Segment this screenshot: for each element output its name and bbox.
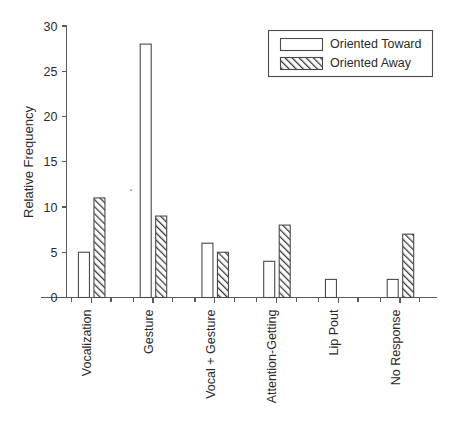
x-category-label: Attention-Getting <box>265 309 279 403</box>
x-category-label: No Response <box>389 309 403 385</box>
legend-label-oriented-toward: Oriented Toward <box>330 37 422 51</box>
bar-vocal-gesture-oriented-away <box>217 252 228 297</box>
y-axis-ticks: 051015202530 <box>44 20 67 306</box>
legend-swatch-oriented-toward <box>281 39 323 51</box>
bar-lip-pout-oriented-toward <box>325 279 336 297</box>
y-tick-label: 25 <box>44 65 58 79</box>
bar-attention-getting-oriented-away <box>279 225 290 297</box>
x-axis-category-labels: VocalizationGestureVocal + GestureAttent… <box>80 309 403 403</box>
bar-gesture-oriented-away <box>156 216 167 297</box>
legend-label-oriented-away: Oriented Away <box>330 56 412 70</box>
bar-vocal-gesture-oriented-toward <box>202 243 213 297</box>
y-tick-label: 30 <box>44 20 58 34</box>
bar-no-response-oriented-away <box>403 234 414 297</box>
y-tick-label: 10 <box>44 201 58 215</box>
bar-no-response-oriented-toward <box>387 279 398 297</box>
y-tick-label: 0 <box>51 291 58 305</box>
bars-layer <box>78 44 413 297</box>
x-category-label: Vocal + Gesture <box>204 309 218 398</box>
bar-gesture-oriented-toward <box>140 44 151 297</box>
bar-chart-svg: 051015202530 Relative Frequency Vocaliza… <box>0 0 451 425</box>
bar-attention-getting-oriented-toward <box>264 261 275 297</box>
bar-vocalization-oriented-toward <box>78 252 89 297</box>
bar-vocalization-oriented-away <box>94 198 105 298</box>
y-tick-label: 5 <box>51 246 58 260</box>
chart-legend: Oriented Toward Oriented Away <box>269 31 433 77</box>
x-category-label: Vocalization <box>80 309 94 376</box>
x-category-label: Gesture <box>142 309 156 354</box>
y-axis-title: Relative Frequency <box>21 106 36 218</box>
chart-figure: 051015202530 Relative Frequency Vocaliza… <box>0 0 451 425</box>
y-tick-label: 20 <box>44 110 58 124</box>
x-axis-ticks <box>71 298 419 303</box>
y-tick-label: 15 <box>44 155 58 169</box>
x-category-label: Lip Pout <box>327 309 341 355</box>
scan-speck <box>130 189 132 191</box>
legend-swatch-oriented-away <box>281 58 323 70</box>
